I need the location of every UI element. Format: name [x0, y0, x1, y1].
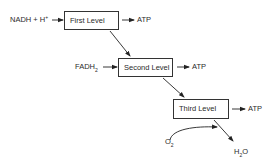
- water-label: H2O: [234, 148, 248, 156]
- fadh-label: FADH2: [75, 63, 98, 71]
- second-level-box: Second Level: [118, 58, 173, 77]
- oxygen-label: O2: [165, 138, 174, 146]
- first-level-atp: ATP: [137, 16, 151, 24]
- first-level-box: First Level: [64, 11, 119, 30]
- third-level-atp: ATP: [248, 105, 262, 113]
- second-level-atp: ATP: [192, 63, 206, 71]
- nadh-label: NADH + H+: [10, 16, 48, 24]
- diagram-connectors: [0, 0, 276, 165]
- third-level-box: Third Level: [173, 99, 229, 119]
